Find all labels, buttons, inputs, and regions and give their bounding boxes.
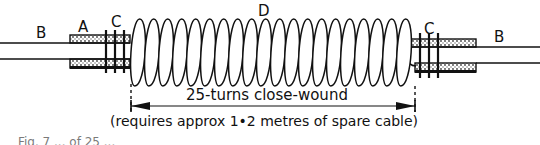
label-tape-right: C [424, 22, 434, 37]
coil-turns [131, 19, 412, 86]
dimension-note: (requires approx 1•2 metres of spare cab… [110, 114, 418, 128]
cable-left [0, 43, 70, 59]
label-coil: D [258, 4, 270, 19]
label-tape-left: C [111, 15, 121, 30]
dimension-text: 25-turns close-wound [186, 88, 348, 103]
cable-right [476, 47, 540, 63]
label-cable-left: B [36, 26, 46, 41]
sleeve-right [405, 39, 476, 73]
sleeve-left [70, 35, 130, 69]
label-sleeve-left: A [78, 20, 88, 35]
label-cable-right: B [494, 30, 504, 45]
caption-fragment: Fig. 7 ... of 25 ... [18, 136, 115, 145]
